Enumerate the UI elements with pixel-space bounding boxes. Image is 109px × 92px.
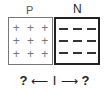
plus-icon: + [27, 48, 34, 60]
left-unknown: ? [19, 74, 27, 88]
n-label: N [73, 4, 82, 15]
n-charge-grid [56, 23, 98, 59]
minus-icon [73, 40, 82, 42]
arrow-right-icon: ⟶ [61, 74, 78, 88]
plus-icon: + [41, 22, 48, 34]
minus-icon [59, 40, 68, 42]
minus-icon [59, 52, 68, 54]
n-region-box [54, 17, 100, 65]
p-charge-grid: + + + + + + + + + [9, 22, 52, 60]
minus-icon [73, 28, 82, 30]
minus-icon [87, 40, 96, 42]
plus-icon: + [13, 35, 20, 47]
minus-icon [87, 52, 96, 54]
plus-icon: + [27, 35, 34, 47]
plus-icon: + [41, 48, 48, 60]
minus-icon [87, 28, 96, 30]
plus-icon: + [13, 48, 20, 60]
right-unknown: ? [82, 74, 90, 88]
plus-icon: + [13, 22, 20, 34]
p-region-box: + + + + + + + + + [8, 17, 53, 65]
current-label: I [53, 74, 57, 88]
p-label: P [26, 5, 33, 16]
plus-icon: + [41, 35, 48, 47]
arrow-left-icon: ⟵ [31, 74, 48, 88]
minus-icon [73, 52, 82, 54]
minus-icon [59, 28, 68, 30]
plus-icon: + [27, 22, 34, 34]
current-direction-question: ? ⟵ I ⟶ ? [0, 73, 109, 88]
